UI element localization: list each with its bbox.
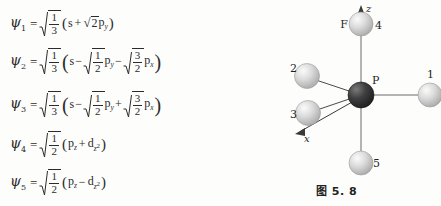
radical-sign	[39, 48, 48, 75]
orbital-p-x: px	[144, 53, 153, 69]
orbital-d-z2: dz2	[88, 136, 100, 152]
close-paren: )	[109, 16, 114, 31]
ligand-atom-4	[349, 12, 373, 36]
textbook-page: ψ1 = 1 3 ( s + √2 py	[0, 0, 441, 206]
radical-sign	[123, 91, 132, 118]
orbital-s: s	[70, 97, 75, 112]
fraction: 1 2	[93, 49, 103, 75]
ligand-atom-3	[296, 101, 321, 126]
operator-minus: −	[75, 54, 82, 69]
equals-sign: =	[30, 137, 37, 153]
close-paren: )	[101, 137, 106, 152]
orbital-p-y: py	[105, 53, 114, 69]
open-paren: (	[62, 95, 69, 115]
sqrt-coefficient: 1 3	[39, 10, 61, 37]
radicand: 1 2	[48, 131, 61, 158]
operator-minus: −	[75, 97, 82, 112]
fraction: 3 2	[133, 49, 143, 75]
x-axis-label: x	[304, 133, 310, 144]
sqrt-fraction: 1 2	[83, 48, 105, 75]
ligand-atom-2	[295, 64, 320, 89]
radical-sign	[39, 10, 48, 37]
equals-sign: =	[30, 97, 37, 113]
radicand: 1 3	[48, 10, 61, 37]
sqrt-coefficient: 1 2	[39, 131, 61, 158]
radicand: 1 2	[92, 91, 105, 118]
ligand-atom-5	[349, 151, 373, 175]
orbital-s: s	[68, 16, 73, 31]
ligand-label-3: 3	[290, 108, 297, 121]
equation-label: ψ2	[10, 52, 26, 71]
operator-plus: +	[79, 137, 86, 152]
open-paren: (	[62, 52, 69, 72]
equation-label: ψ4	[10, 135, 26, 154]
open-paren: (	[62, 16, 67, 31]
equals-sign: =	[30, 16, 37, 32]
radical-sign	[39, 131, 48, 158]
operator-plus: +	[115, 97, 122, 112]
radical-sign	[39, 169, 48, 196]
equation-label: ψ3	[10, 95, 26, 114]
open-paren: (	[62, 175, 67, 190]
close-paren: )	[155, 52, 162, 72]
radical-glyph: √	[83, 16, 90, 29]
equals-sign: =	[30, 54, 37, 70]
equation-list: ψ1 = 1 3 ( s + √2 py	[0, 0, 232, 206]
ligand-atom-1	[418, 83, 441, 107]
orbital-p-z: pz	[68, 136, 77, 152]
radical-sign	[83, 48, 92, 75]
central-atom-label-p: P	[372, 74, 380, 87]
molecular-structure-figure: F 4 5 1 2 3 P z x 图 5. 8	[232, 0, 441, 206]
close-paren: )	[155, 95, 162, 115]
sqrt-fraction: 1 2	[83, 91, 105, 118]
fraction: 1 2	[49, 132, 59, 158]
orbital-d-z2: dz2	[88, 174, 100, 190]
fraction: 1 2	[49, 170, 59, 196]
orbital-p-x: px	[144, 96, 153, 112]
sqrt-coefficient: 1 3	[39, 48, 61, 75]
open-paren: (	[62, 137, 67, 152]
orbital-s: s	[70, 54, 75, 69]
radical-sign	[123, 48, 132, 75]
ligand-label-4: 4	[375, 19, 382, 32]
equals-sign: =	[30, 175, 37, 191]
radical-sign	[39, 91, 48, 118]
element-label-f: F	[340, 18, 348, 31]
radicand: 3 2	[132, 48, 145, 75]
operator-minus: −	[115, 54, 122, 69]
fraction: 1 3	[49, 92, 59, 118]
radicand: 1 2	[92, 48, 105, 75]
radicand: 1 3	[48, 48, 61, 75]
operator-minus: −	[79, 175, 86, 190]
fraction: 3 2	[133, 92, 143, 118]
orbital-p-y: py	[99, 15, 108, 31]
orbital-p-y: py	[105, 96, 114, 112]
pf5-diagram: F 4 5 1 2 3 P z x	[232, 0, 441, 206]
equation-psi-1: ψ1 = 1 3 ( s + √2 py	[10, 10, 115, 37]
radicand: 3 2	[132, 91, 145, 118]
sqrt-fraction: 3 2	[123, 48, 145, 75]
figure-caption: 图 5. 8	[232, 182, 441, 198]
equation-label: ψ1	[10, 14, 26, 33]
ligand-label-5: 5	[373, 157, 380, 170]
equation-psi-4: ψ4 = 1 2 ( pz + dz2	[10, 131, 107, 158]
equation-psi-5: ψ5 = 1 2 ( pz − dz2	[10, 169, 107, 196]
central-atom-p	[348, 82, 374, 108]
fraction: 1 3	[49, 11, 59, 37]
equation-psi-2: ψ2 = 1 3 ( s −	[10, 48, 162, 75]
radicand: 1 2	[48, 169, 61, 196]
ligand-label-1: 1	[427, 68, 434, 81]
sqrt-coefficient: 1 3	[39, 91, 61, 118]
radicand: 1 3	[48, 91, 61, 118]
equation-psi-3: ψ3 = 1 3 ( s −	[10, 91, 162, 118]
orbital-p-z: pz	[68, 174, 77, 190]
sqrt-coefficient: 1 2	[39, 169, 61, 196]
radical-sign	[83, 91, 92, 118]
fraction: 1 3	[49, 49, 59, 75]
sqrt-fraction: 3 2	[123, 91, 145, 118]
fraction: 1 2	[93, 92, 103, 118]
close-paren: )	[101, 175, 106, 190]
z-axis-label: z	[365, 3, 372, 14]
equation-label: ψ5	[10, 173, 26, 192]
sqrt-two: √2	[83, 16, 98, 31]
